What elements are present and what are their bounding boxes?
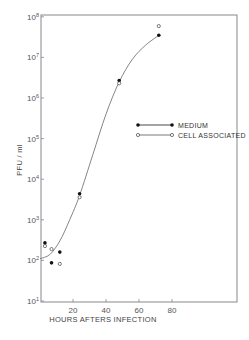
growth-curve-chart: 101102103104105106107108 20406080 HOURS … [0, 0, 249, 340]
y-tick-label: 108 [27, 12, 39, 22]
x-axis: 20406080 [69, 299, 177, 315]
y-tick-label: 105 [27, 134, 39, 144]
medium-data-point [78, 192, 82, 196]
y-tick-label: 103 [27, 215, 39, 225]
cell-associated-data-point [157, 25, 160, 28]
cell-associated-data-point [50, 247, 53, 250]
legend-cell-label: CELL ASSOCIATED [178, 132, 246, 139]
legend-cell-marker-right [170, 133, 173, 136]
cell-associated-data-point [118, 82, 121, 85]
legend-medium-marker-right [170, 123, 174, 127]
y-tick-label: 102 [27, 255, 39, 265]
y-axis-title: PFU / ml [15, 144, 24, 176]
medium-data-point [58, 250, 62, 254]
medium-data-point [50, 261, 54, 265]
x-tick-label: 60 [135, 306, 144, 315]
y-tick-label: 104 [27, 174, 39, 184]
legend: MEDIUM CELL ASSOCIATED [136, 122, 246, 139]
cell-associated-data-point [43, 245, 46, 248]
y-tick-label: 107 [27, 52, 39, 62]
data-points [43, 25, 160, 266]
y-tick-label: 101 [27, 296, 39, 306]
legend-medium-label: MEDIUM [178, 122, 208, 129]
fit-curve [40, 35, 159, 258]
medium-data-point [43, 241, 47, 245]
x-tick-label: 20 [69, 306, 78, 315]
cell-associated-data-point [58, 262, 61, 265]
plot-frame [41, 15, 237, 302]
x-tick-label: 40 [102, 306, 111, 315]
y-tick-label: 106 [27, 93, 39, 103]
legend-cell-marker-left [136, 133, 139, 136]
medium-data-point [157, 34, 161, 38]
cell-associated-data-point [78, 196, 81, 199]
x-tick-label: 80 [168, 306, 177, 315]
x-axis-title: HOURS AFTERS INFECTION [49, 315, 156, 324]
legend-medium-marker-left [136, 123, 140, 127]
